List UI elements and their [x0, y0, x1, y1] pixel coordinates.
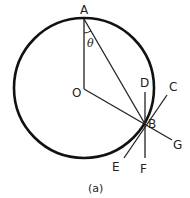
label-C: C [169, 80, 177, 94]
line-OBG [84, 89, 172, 140]
label-D: D [140, 76, 149, 90]
angle-theta-arc [84, 31, 91, 33]
label-theta: θ [87, 37, 94, 50]
label-E: E [112, 160, 120, 174]
caption: (a) [88, 182, 103, 195]
label-O: O [72, 86, 81, 100]
label-B: B [148, 117, 156, 131]
circle-geometry-diagram: A θ O D C B G E F (a) [0, 0, 190, 198]
label-G: G [173, 138, 182, 152]
chord-AB [84, 19, 145, 124]
label-A: A [80, 3, 89, 17]
label-F: F [140, 162, 147, 176]
